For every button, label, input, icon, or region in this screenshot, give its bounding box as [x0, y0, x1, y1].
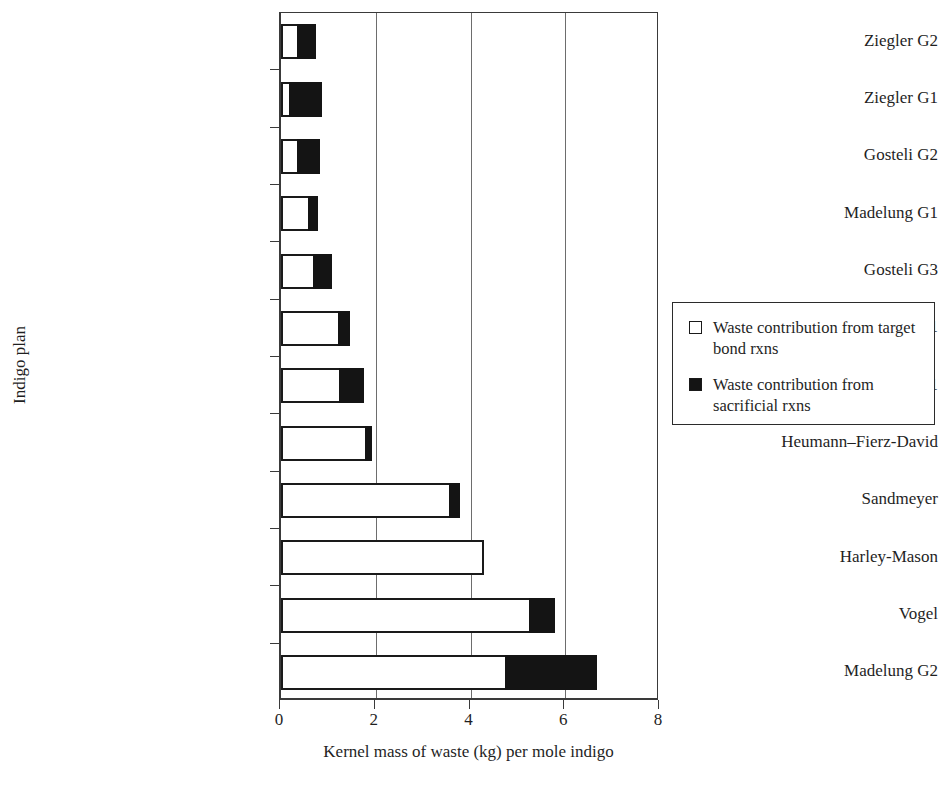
y-axis-tick-label: Gosteli G3 [680, 260, 952, 279]
bar-chart-figure: Indigo plan Ziegler G2Ziegler G1Gosteli … [0, 0, 952, 789]
bar-row [281, 196, 660, 231]
plot-area [279, 12, 658, 700]
bar-row [281, 254, 660, 289]
bar-segment-sacrificial-rxns [449, 483, 460, 518]
y-axis-tick-mark [270, 184, 279, 185]
bar-segment-target-bond-rxns [281, 254, 315, 289]
x-axis-tick-mark [563, 700, 564, 709]
legend-item-label: Waste contribution from target bond rxns [713, 317, 924, 359]
y-axis-title: Indigo plan [8, 270, 32, 460]
y-axis-tick-mark [270, 127, 279, 128]
bar-segment-sacrificial-rxns [289, 82, 322, 117]
y-axis-tick-label: Madelung G1 [680, 203, 952, 222]
bar-segment-sacrificial-rxns [338, 311, 350, 346]
legend-item-label: Waste contribution from sacrificial rxns [713, 374, 924, 416]
y-axis-tick-mark [270, 241, 279, 242]
y-axis-tick-label: Harley-Mason [680, 547, 952, 566]
bar-row [281, 483, 660, 518]
bar-segment-sacrificial-rxns [365, 426, 372, 461]
y-axis-tick-mark [270, 528, 279, 529]
bar-segment-sacrificial-rxns [308, 196, 318, 231]
bar-row [281, 655, 660, 690]
bar-segment-target-bond-rxns [281, 426, 367, 461]
bar-row [281, 540, 660, 575]
x-axis-title: Kernel mass of waste (kg) per mole indig… [279, 742, 658, 762]
x-axis-tick-label: 8 [638, 710, 678, 730]
y-axis-tick-mark [270, 356, 279, 357]
bar-segment-sacrificial-rxns [297, 24, 316, 59]
x-axis-tick-mark [279, 700, 280, 709]
bar-segment-sacrificial-rxns [529, 598, 555, 633]
x-axis-tick-mark [469, 700, 470, 709]
x-axis-tick-mark [658, 700, 659, 709]
bar-segment-target-bond-rxns [281, 598, 531, 633]
bar-row [281, 426, 660, 461]
bar-row [281, 24, 660, 59]
y-axis-tick-mark [270, 413, 279, 414]
y-axis-tick-label: Madelung G2 [680, 661, 952, 680]
bar-segment-sacrificial-rxns [505, 655, 597, 690]
bar-row [281, 82, 660, 117]
y-axis-title-text: Indigo plan [10, 326, 30, 404]
bar-segment-sacrificial-rxns [313, 254, 332, 289]
y-axis-tick-label: Vogel [680, 604, 952, 623]
bar-row [281, 598, 660, 633]
y-axis-tick-mark [270, 643, 279, 644]
filled-square-swatch-icon [689, 378, 702, 391]
open-square-swatch-icon [689, 321, 702, 334]
y-axis-tick-label: Ziegler G1 [680, 88, 952, 107]
y-axis-tick-mark [270, 299, 279, 300]
x-axis-tick-label: 6 [543, 710, 583, 730]
y-axis-tick-mark [270, 585, 279, 586]
bar-segment-sacrificial-rxns [339, 368, 364, 403]
bar-row [281, 368, 660, 403]
y-axis-tick-label: Gosteli G2 [680, 145, 952, 164]
y-axis-tick-label: Ziegler G2 [680, 31, 952, 50]
y-axis-tick-mark [270, 69, 279, 70]
bar-segment-target-bond-rxns [281, 655, 507, 690]
y-axis-tick-mark [270, 471, 279, 472]
x-axis-tick-label: 0 [259, 710, 299, 730]
y-axis-tick-label: Heumann–Fierz-David [680, 432, 952, 451]
bar-segment-target-bond-rxns [281, 196, 310, 231]
bar-segment-sacrificial-rxns [297, 139, 320, 174]
bar-row [281, 311, 660, 346]
y-axis-tick-label: Sandmeyer [680, 489, 952, 508]
x-axis-tick-label: 2 [354, 710, 394, 730]
bar-segment-target-bond-rxns [281, 483, 451, 518]
x-axis-tick-mark [374, 700, 375, 709]
bar-segment-target-bond-rxns [281, 311, 340, 346]
x-axis-tick-label: 4 [449, 710, 489, 730]
legend-item: Waste contribution from sacrificial rxns [689, 374, 924, 416]
bar-row [281, 139, 660, 174]
bar-segment-target-bond-rxns [281, 368, 341, 403]
bar-segment-target-bond-rxns [281, 540, 484, 575]
legend-item: Waste contribution from target bond rxns [689, 317, 924, 359]
legend: Waste contribution from target bond rxns… [672, 302, 935, 425]
